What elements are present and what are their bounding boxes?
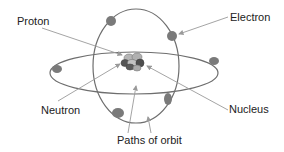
electron xyxy=(167,31,177,41)
nucleus-arrow xyxy=(147,66,228,110)
orbit-arrow-left xyxy=(128,86,136,133)
nucleus-label: Nucleus xyxy=(229,103,269,115)
neutron-arrow xyxy=(58,64,120,101)
atom-diagram: Proton Electron Neutron Nucleus Paths of… xyxy=(0,0,284,152)
neutron-particle xyxy=(126,64,134,70)
proton-arrow xyxy=(42,28,122,55)
electron-arrow xyxy=(179,17,228,34)
electron xyxy=(106,16,116,26)
proton-particle xyxy=(133,65,141,71)
electron xyxy=(52,65,62,73)
orbit-label: Paths of orbit xyxy=(117,134,182,146)
electron xyxy=(112,108,124,118)
electron xyxy=(164,93,172,105)
electron-label: Electron xyxy=(230,11,270,23)
proton-label: Proton xyxy=(17,15,49,27)
nucleus xyxy=(121,53,144,71)
electron xyxy=(209,57,219,65)
neutron-label: Neutron xyxy=(41,104,80,116)
